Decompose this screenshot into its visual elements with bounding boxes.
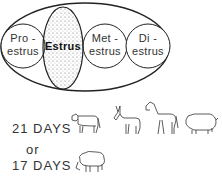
proestrus-line1: Pro - bbox=[5, 32, 41, 45]
duration-or: or bbox=[26, 142, 40, 157]
duration-17-days: 17 DAYS bbox=[12, 158, 72, 173]
metestrus-line1: Met - bbox=[87, 32, 123, 45]
duration-21-days: 21 DAYS bbox=[12, 121, 72, 136]
donkey-icon bbox=[114, 106, 140, 134]
sheep-icon bbox=[76, 151, 105, 172]
diestrus-label: Di - estrus bbox=[130, 32, 166, 58]
proestrus-line2: estrus bbox=[5, 45, 41, 58]
estrus-label: Estrus bbox=[44, 40, 82, 53]
metestrus-label: Met - estrus bbox=[87, 32, 123, 58]
metestrus-line2: estrus bbox=[87, 45, 123, 58]
cow-icon bbox=[72, 114, 100, 133]
horse-icon bbox=[146, 102, 178, 134]
diestrus-line1: Di - bbox=[130, 32, 166, 45]
diestrus-line2: estrus bbox=[130, 45, 166, 58]
estrus-line1: Estrus bbox=[44, 40, 82, 53]
proestrus-label: Pro - estrus bbox=[5, 32, 41, 58]
pig-icon bbox=[186, 114, 218, 134]
